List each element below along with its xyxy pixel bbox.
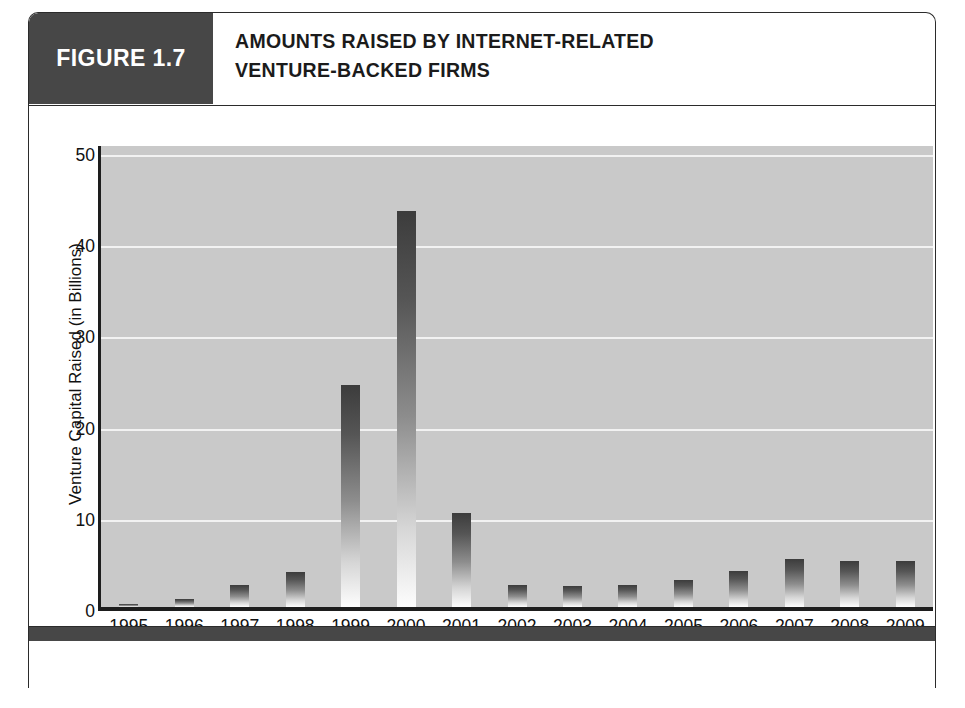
bar-slot xyxy=(267,146,322,607)
bar-slot xyxy=(101,146,156,607)
y-axis-tick-label: 50 xyxy=(45,145,95,166)
bar-slot xyxy=(323,146,378,607)
figure-title-line-2: VENTURE-BACKED FIRMS xyxy=(235,56,925,85)
bar-2003 xyxy=(563,586,582,607)
y-axis-tick-label: 10 xyxy=(45,509,95,530)
bar-slot xyxy=(156,146,211,607)
bar-2007 xyxy=(785,559,804,607)
bar-1997 xyxy=(230,585,249,607)
bar-slot xyxy=(767,146,822,607)
figure-card: FIGURE 1.7 AMOUNTS RAISED BY INTERNET-RE… xyxy=(28,12,936,688)
figure-header: FIGURE 1.7 AMOUNTS RAISED BY INTERNET-RE… xyxy=(29,13,935,106)
figure-title-line-1: AMOUNTS RAISED BY INTERNET-RELATED xyxy=(235,27,925,56)
bar-1999 xyxy=(341,385,360,607)
bar-slot xyxy=(822,146,877,607)
bar-slot xyxy=(489,146,544,607)
caption-strip xyxy=(29,641,935,688)
bar-slot xyxy=(711,146,766,607)
bar-slot xyxy=(656,146,711,607)
bar-slot xyxy=(600,146,655,607)
bar-1998 xyxy=(286,572,305,607)
y-axis-tick-label: 40 xyxy=(45,236,95,257)
figure-number-badge: FIGURE 1.7 xyxy=(29,13,213,104)
y-axis-tick-label: 30 xyxy=(45,327,95,348)
bar-2004 xyxy=(618,585,637,607)
bar-2008 xyxy=(840,561,859,608)
chart-body: Venture Capital Raised (in Billions) 010… xyxy=(29,106,935,688)
bar-1996 xyxy=(175,599,194,607)
plot-area xyxy=(98,146,933,611)
bar-2002 xyxy=(508,585,527,607)
bar-slot xyxy=(434,146,489,607)
bar-series xyxy=(101,146,933,607)
bar-2009 xyxy=(896,561,915,608)
y-axis-tick-label: 0 xyxy=(45,601,95,622)
bar-slot xyxy=(545,146,600,607)
footer-rule xyxy=(29,626,935,641)
bar-1995 xyxy=(119,604,138,607)
bar-2006 xyxy=(729,571,748,607)
y-axis-tick-label: 20 xyxy=(45,418,95,439)
bar-slot xyxy=(878,146,933,607)
y-axis-tick-labels: 01020304050 xyxy=(45,106,95,586)
bar-slot xyxy=(212,146,267,607)
bar-2005 xyxy=(674,580,693,607)
figure-title: AMOUNTS RAISED BY INTERNET-RELATED VENTU… xyxy=(235,27,925,85)
bar-2000 xyxy=(397,211,416,607)
bar-2001 xyxy=(452,513,471,607)
bar-slot xyxy=(378,146,433,607)
figure-number-label: FIGURE 1.7 xyxy=(56,45,185,72)
